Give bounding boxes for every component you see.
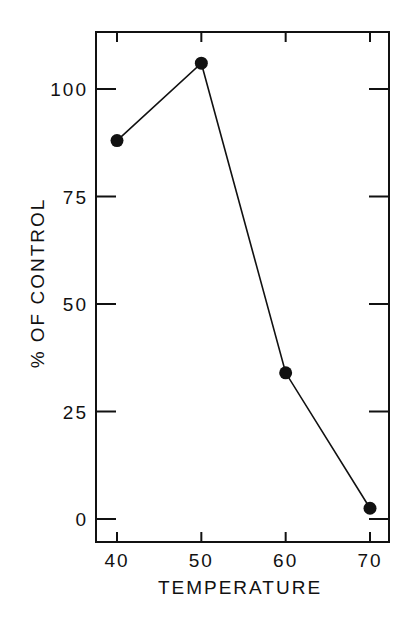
- y-tick-label: 50: [63, 294, 88, 315]
- x-axis-label: TEMPERATURE: [158, 577, 322, 598]
- y-tick-label: 0: [75, 509, 88, 530]
- line-chart: 0255075100 40506070 TEMPERATURE % OF CON…: [0, 0, 415, 626]
- x-tick-label: 60: [273, 550, 298, 571]
- y-tick-label: 75: [63, 187, 88, 208]
- data-point-marker: [111, 134, 124, 147]
- y-axis-label: % OF CONTROL: [27, 198, 48, 369]
- series-line: [117, 63, 370, 508]
- plot-frame: [96, 32, 389, 542]
- data-series: [111, 57, 377, 515]
- x-tick-label: 40: [104, 550, 129, 571]
- y-tick-label: 25: [63, 402, 88, 423]
- x-tick-label: 50: [189, 550, 214, 571]
- data-point-marker: [195, 57, 208, 70]
- data-point-marker: [279, 366, 292, 379]
- y-axis-ticks: 0255075100: [50, 79, 389, 530]
- x-tick-label: 70: [357, 550, 382, 571]
- data-point-marker: [364, 502, 377, 515]
- y-tick-label: 100: [50, 79, 88, 100]
